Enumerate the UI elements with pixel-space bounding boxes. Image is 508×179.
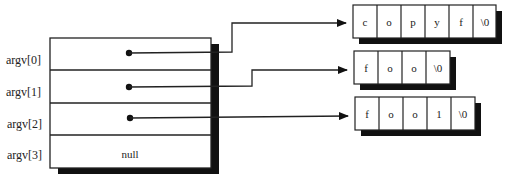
char-cell: \0 (434, 62, 443, 74)
string-box-0: c o p y f \0 (353, 5, 502, 44)
char-cell: o (386, 16, 392, 28)
char-cell: f (459, 16, 463, 28)
argv-diagram: argv[0] argv[1] argv[2] argv[3] null c o… (0, 0, 508, 179)
char-cell: o (387, 62, 393, 74)
char-cell: f (364, 62, 368, 74)
null-value: null (121, 148, 138, 160)
row-label-argv1: argv[1] (6, 85, 41, 99)
char-cell: \0 (459, 108, 468, 120)
char-cell: \0 (481, 16, 490, 28)
char-cell: y (434, 16, 440, 28)
string-box-1: f o o \0 (354, 51, 456, 90)
row-label-argv2: argv[2] (7, 117, 42, 131)
char-cell: o (412, 108, 418, 120)
char-cell: o (411, 62, 417, 74)
char-cell: f (365, 108, 369, 120)
char-cell: p (410, 16, 416, 28)
char-cell: 1 (436, 108, 442, 120)
char-cell: c (363, 16, 368, 28)
row-label-argv0: argv[0] (6, 53, 41, 67)
char-cell: o (388, 108, 394, 120)
row-label-argv3: argv[3] (7, 148, 42, 162)
string-box-2: f o o 1 \0 (355, 97, 481, 136)
